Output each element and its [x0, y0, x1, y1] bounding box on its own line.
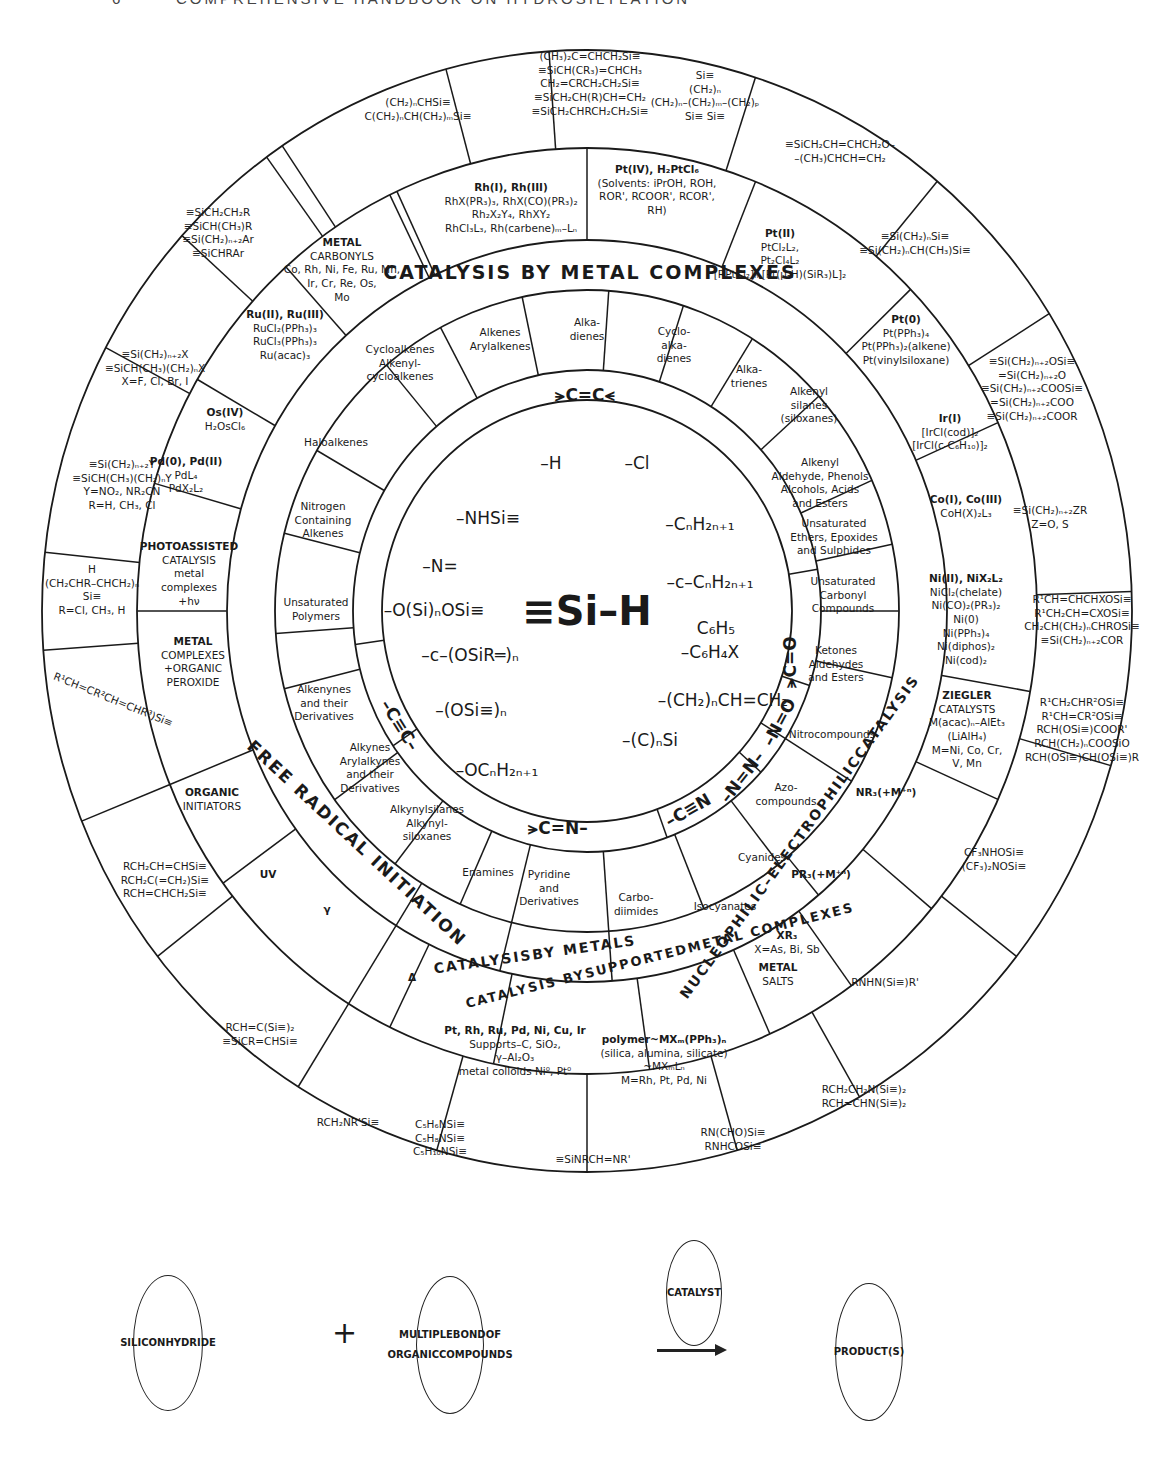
catalyst-cell: PHOTOASSISTEDCATALYSISmetalcomplexes+hν	[140, 540, 239, 608]
catalyst-cell: Δ	[408, 971, 416, 985]
product-cell: ≡Si(CH₂)ₙ₊₂OSi≡=Si(CH₂)ₙ₊₂O≡Si(CH₂)ₙ₊₂CO…	[981, 355, 1083, 423]
product-cell: ≡SiNRCH=NR'	[555, 1153, 630, 1167]
substrate-cell: Cyclo-alka-dienes	[657, 325, 692, 366]
substrate-cell: Alka-trienes	[731, 363, 767, 390]
catalyst-cell: METALCOMPLEXES+ORGANICPEROXIDE	[161, 635, 225, 690]
substituent: –H	[540, 453, 561, 473]
substrate-cell: PyridineandDerivatives	[519, 868, 579, 909]
substrate-cell: Alkenynesand theirDerivatives	[294, 683, 354, 724]
catalyst-cell: Os(IV)H₂OsCl₆	[205, 406, 245, 433]
catalyst-cell: Ir(I)[IrCl(cod)]₂[IrCl(c-C₆H₁₀)]₂	[912, 412, 988, 453]
product-cell: ≡Si(CH₂)ₙSi≡≡Si(CH₂)ₙCH(CH₃)Si≡	[859, 230, 970, 257]
ring-divider	[45, 552, 140, 562]
ring-divider	[355, 640, 384, 644]
product-cell: CF₃NHOSi≡(CF₃)₂NOSi≡	[962, 846, 1026, 873]
catalyst-cell: Ni(II), NiX₂L₂NiCl₂(chelate)Ni(CO)₂(PR₃)…	[929, 572, 1003, 667]
substrate-cell: UnsaturatedCarbonylCompounds	[810, 575, 875, 616]
product-cell: ≡Si(CH₂)ₙ₊₂ZRZ=O, S	[1013, 504, 1087, 531]
substrate-cell: AlkynesArylalkynesand theirDerivatives	[340, 741, 401, 796]
substituent: –(OSi≡)ₙ	[435, 700, 507, 720]
substrate-cell: Haloalkenes	[304, 436, 368, 450]
catalyst-cell: METALSALTS	[759, 961, 798, 988]
catalyst-cell: PR₃(+M⁺ⁿ)	[791, 868, 851, 882]
scheme-reactant2: MULTIPLEBONDOF ORGANICCOMPOUNDS	[416, 1276, 484, 1414]
catalyst-cell: γ	[323, 903, 330, 917]
substrate-cell: CycloalkenesAlkenyl-cycloalkenes	[366, 343, 435, 384]
substrate-cell: AlkenesArylalkenes	[470, 326, 531, 353]
product-cell: H(CH₂CHR–CHCH₂)ₙSi≡R=Cl, CH₃, H	[45, 563, 139, 618]
substituent: –(CH₂)ₙCH=CH₂	[658, 690, 788, 710]
product-cell: ≡SiCH₂CH=CHCH₂O––(CH₃)CHCH=CH₂	[785, 138, 895, 165]
ring-divider	[43, 643, 138, 650]
substituent: –(C)ₙSi	[622, 730, 678, 750]
ring-divider	[158, 896, 233, 956]
ring-divider	[276, 628, 354, 634]
product-cell: R¹CH₂CHR²OSi≡R¹CH=CR²OSi≡RCH(OSi≡)COOR'R…	[1025, 696, 1139, 764]
substituent: –Cl	[624, 453, 649, 473]
substituent: –CₙH₂ₙ₊₁	[665, 514, 734, 534]
substrate-cell: NitrogenContainingAlkenes	[295, 500, 352, 541]
substrate-cell: Enamines	[462, 866, 513, 880]
ring-divider	[282, 146, 335, 227]
catalyst-cell: NR₃(+M⁺ⁿ)	[856, 786, 917, 800]
substituent: C₆H₅	[697, 618, 735, 638]
product-cell: C₅H₆NSi≡C₅H₈NSi≡C₅H₁₀NSi≡	[413, 1118, 467, 1159]
substituent: –N=	[422, 556, 457, 576]
catalyst-cell: Pt(0)Pt(PPh₃)₄Pt(PPh₃)₂(alkene)Pt(vinyls…	[861, 313, 950, 368]
catalyst-cell: Pt, Rh, Ru, Pd, Ni, Cu, IrSupports–C, Si…	[444, 1024, 586, 1079]
ring-divider	[675, 834, 704, 908]
scheme-product: PRODUCT(S)	[835, 1283, 903, 1421]
product-cell: ≡Si(CH₂)ₙ₊₂X≡SiCH(CH₃)(CH₂)ₙXX=F, Cl, Br…	[105, 348, 205, 389]
product-cell: RN(CHO)Si≡RNHCOSi≡	[700, 1126, 765, 1153]
substrate-cell: UnsaturatedEthers, Epoxidesand Sulphides	[790, 517, 877, 558]
ring-divider	[317, 451, 384, 491]
ring-divider	[941, 896, 1016, 956]
bond-c-o-double: ⪫C=O	[780, 636, 800, 687]
ring-divider	[298, 1004, 348, 1087]
ring-divider	[390, 944, 429, 1027]
substrate-cell: Alkenylsilanes(siloxanes)	[781, 385, 838, 426]
catalyst-cell: ZIEGLERCATALYSTSM(acac)ₙ–AlEt₃(LiAlH₄)M=…	[929, 689, 1005, 771]
catalyst-cell: Rh(I), Rh(III)RhX(PR₃)₃, RhX(CO)(PR₃)₂Rh…	[444, 181, 577, 236]
product-cell: (CH₃)₂C=CHCH₂Si≡≡SiCH(CR₃)=CHCH₃CH₂=CRCH…	[531, 50, 648, 118]
product-cell: ≡SiCH₂CH₂R≡SiCH(CH₃)R≡Si(CH₂)ₙ₊₂Ar≡SiCHR…	[182, 206, 253, 261]
substituent: –NHSi≡	[456, 508, 520, 528]
substrate-cell: AlkenylAldehyde, PhenolsAlcohols, Acidsa…	[772, 456, 869, 511]
product-cell: RCH₂NR'Si≡	[317, 1116, 380, 1130]
substrate-cell: Carbo-diimides	[614, 891, 658, 918]
bond-c-c-double: ⪫C=C⪪	[555, 385, 614, 405]
substrate-cell: Alka-dienes	[570, 316, 605, 343]
catalyst-cell: UV	[260, 868, 277, 882]
bond-c-n-double: ⪫C=N–	[528, 818, 587, 838]
product-cell: Si≡(CH₂)ₙ(CH₂)ₙ–(CH₂)ₘ–(CH₂)ₚSi≡ Si≡	[651, 69, 760, 124]
ring-divider	[349, 926, 396, 1004]
scheme-catalyst: CATALYST	[666, 1240, 722, 1346]
product-cell: RCH₂CH=CHSi≡RCH₂C(=CH₂)Si≡RCH=CHCH₂Si≡	[121, 860, 209, 901]
catalyst-cell: Pt(IV), H₂PtCl₆(Solvents: iPrOH, ROH,ROR…	[598, 163, 717, 218]
band-metal-complexes: CATALYSIS BY METAL COMPLEXES	[383, 263, 796, 281]
product-cell: RCH=C(Si≡)₂≡SiCR=CHSi≡	[222, 1021, 297, 1048]
catalyst-cell: Pd(0), Pd(II)PdL₄PdX₂L₂	[150, 455, 222, 496]
ring-divider	[170, 750, 253, 784]
substituent: –c–CₙH₂ₙ₊₁	[666, 572, 753, 592]
ring-divider	[82, 784, 170, 821]
ring-divider	[267, 157, 323, 236]
substituent: –C₆H₄X	[681, 642, 739, 662]
product-cell: RCH₂CH₂N(Si≡)₂RCH=CHN(Si≡)₂	[822, 1083, 907, 1110]
product-cell: (CH₂)ₙCHSi≡C(CH₂)ₙCH(CH₂)ₘSi≡	[365, 96, 472, 123]
catalyst-cell: Ru(II), Ru(III)RuCl₂(PPh₃)₃RuCl₃(PPh₃)₃R…	[246, 308, 324, 363]
ring-divider	[603, 851, 608, 931]
substrate-cell: AlkynylsilanesAlkynyl-siloxanes	[390, 803, 464, 844]
substituent: –c–(OSiR═)ₙ	[421, 645, 518, 665]
catalyst-cell: polymer~MXₘ(PPh₃)ₙ(silica, alumina, sili…	[600, 1033, 727, 1088]
silicon-hydride-center: ≡Si–H	[522, 588, 652, 634]
reaction-arrow	[657, 1349, 717, 1352]
plus-sign: +	[332, 1315, 357, 1350]
catalyst-cell: ORGANICINITIATORS	[183, 786, 242, 813]
scheme-reactant1: SILICONHYDRIDE	[133, 1275, 203, 1411]
product-cell: RNHN(Si≡)R'	[851, 976, 919, 990]
substituent: –O(Si)ₙOSi≡	[384, 600, 485, 620]
ring-divider	[863, 849, 931, 908]
substituent: –OCₙH₂ₙ₊₁	[456, 760, 539, 780]
substrate-cell: KetonesAldehydesand Esters	[808, 644, 864, 685]
